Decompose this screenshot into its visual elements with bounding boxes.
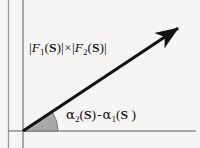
angle-alpha-1: α <box>66 107 75 122</box>
magnitude-times-operator: × <box>64 41 72 55</box>
angle-s-1: S <box>84 107 92 122</box>
magnitude-f-2: F <box>75 40 83 55</box>
vector-phasor-diagram: |F1(S)|×|F2(S)| α2(S)-α1(S ) <box>0 0 200 148</box>
angle-paren-close-2: ) <box>128 107 136 122</box>
magnitude-s-2: S <box>92 40 100 55</box>
magnitude-f-1: F <box>32 40 40 55</box>
angle-label: α2(S)-α1(S ) <box>66 108 136 124</box>
magnitude-label: |F1(S)|×|F2(S)| <box>29 41 107 57</box>
diagram-canvas <box>0 0 200 148</box>
angle-s-2: S <box>121 107 129 122</box>
magnitude-bar-close-2: | <box>104 40 107 55</box>
magnitude-s-1: S <box>49 40 57 55</box>
